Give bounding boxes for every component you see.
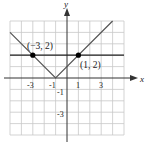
y-tick-neg1: -1 [57,88,64,97]
coordinate-graph: (−3, 2) (1, 2) x y -3 -1 1 3 -1 -3 [0,0,147,149]
x-axis-label: x [139,74,144,84]
y-axis-arrow-icon [64,8,70,16]
point-1-2 [76,53,81,58]
point-label-1-2: (1, 2) [80,60,101,71]
x-tick-neg1: -1 [49,81,56,90]
y-tick-neg3: -3 [57,110,64,119]
x-tick-1: 1 [76,81,80,90]
x-tick-3: 3 [99,81,103,90]
point-label-neg3-2: (−3, 2) [27,41,53,52]
x-axis-arrow-icon [130,75,138,81]
point-neg3-2 [30,53,35,58]
x-tick-neg3: -3 [27,81,34,90]
axes [4,12,134,142]
y-axis-label: y [63,0,68,9]
